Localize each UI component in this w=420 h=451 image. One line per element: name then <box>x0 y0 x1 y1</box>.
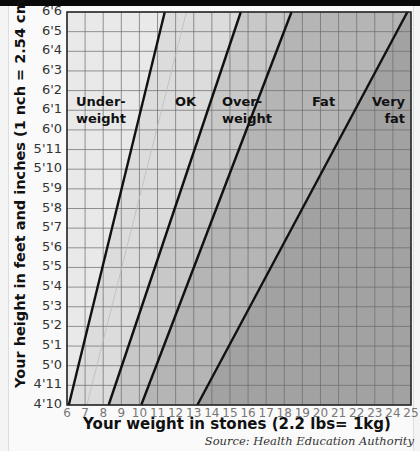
x-tick-label: 21 <box>329 406 349 420</box>
x-tick-label: 17 <box>256 406 276 420</box>
y-tick-label: 5'8 <box>20 200 62 215</box>
source-credit: Source: Health Education Authority <box>205 434 414 448</box>
x-tick-label: 12 <box>166 406 186 420</box>
y-tick-label: 5'3 <box>20 298 62 313</box>
x-tick-label: 11 <box>148 406 168 420</box>
x-tick-label: 6 <box>57 406 77 420</box>
y-tick-label: 4'11 <box>20 376 62 391</box>
y-tick-label: 5'9 <box>20 180 62 195</box>
zone-label: OK <box>175 93 196 110</box>
x-tick-label: 9 <box>111 406 131 420</box>
zone-label: Fat <box>312 93 335 110</box>
y-tick-label: 5'7 <box>20 219 62 234</box>
y-tick-label: 6'4 <box>20 42 62 57</box>
y-tick-label: 6'2 <box>20 82 62 97</box>
zone-label: Under-weight <box>76 93 126 127</box>
x-tick-label: 25 <box>401 406 420 420</box>
x-tick-label: 8 <box>93 406 113 420</box>
y-tick-label: 4'10 <box>20 396 62 411</box>
y-tick-label: 5'11 <box>20 141 62 156</box>
y-tick-label: 5'4 <box>20 278 62 293</box>
y-tick-label: 6'0 <box>20 121 62 136</box>
y-tick-label: 5'2 <box>20 317 62 332</box>
x-tick-label: 13 <box>184 406 204 420</box>
y-tick-label: 5'1 <box>20 337 62 352</box>
x-tick-label: 18 <box>274 406 294 420</box>
x-tick-label: 19 <box>292 406 312 420</box>
y-tick-label: 5'6 <box>20 239 62 254</box>
y-tick-label: 6'5 <box>20 23 62 38</box>
x-tick-label: 24 <box>383 406 403 420</box>
x-tick-label: 14 <box>202 406 222 420</box>
x-tick-label: 23 <box>365 406 385 420</box>
x-tick-label: 7 <box>75 406 95 420</box>
x-tick-label: 10 <box>129 406 149 420</box>
x-tick-label: 20 <box>310 406 330 420</box>
x-tick-label: 16 <box>238 406 258 420</box>
y-tick-label: 5'5 <box>20 258 62 273</box>
x-tick-label: 22 <box>347 406 367 420</box>
zone-label: Veryfat <box>372 93 405 127</box>
x-tick-label: 15 <box>220 406 240 420</box>
y-tick-label: 6'3 <box>20 62 62 77</box>
zone-label: Over-weight <box>222 93 272 127</box>
y-tick-label: 6'1 <box>20 101 62 116</box>
y-tick-label: 6'6 <box>20 3 62 18</box>
y-tick-label: 5'10 <box>20 160 62 175</box>
y-tick-label: 5'0 <box>20 357 62 372</box>
bmi-chart-plot <box>0 0 420 451</box>
